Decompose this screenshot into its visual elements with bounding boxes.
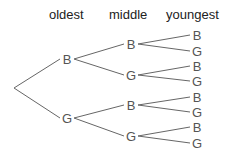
node-youngest-g: G [192,75,202,88]
branch-line [138,75,190,81]
branch-line [138,136,190,143]
node-youngest-b: B [193,29,202,42]
node-middle-b: B [127,99,136,112]
node-middle-g: G [126,130,136,143]
branch-line [14,88,60,118]
node-youngest-b: B [193,121,202,134]
branch-line [138,97,190,105]
branch-line [138,105,190,112]
node-youngest-g: G [192,137,202,150]
branch-line [138,66,190,75]
node-middle-g: G [126,69,136,82]
branch-line [138,127,190,136]
node-oldest-g: G [62,112,72,125]
branch-line [138,35,190,44]
node-youngest-b: B [193,91,202,104]
node-youngest-g: G [192,45,202,58]
branch-line [138,44,190,51]
branch-line [14,59,60,88]
node-youngest-g: G [192,106,202,119]
branch-line [74,59,124,75]
node-middle-b: B [127,38,136,51]
branch-line [74,105,124,118]
branch-line [74,118,124,136]
node-oldest-b: B [63,53,72,66]
branch-line [74,44,124,59]
node-youngest-b: B [193,60,202,73]
